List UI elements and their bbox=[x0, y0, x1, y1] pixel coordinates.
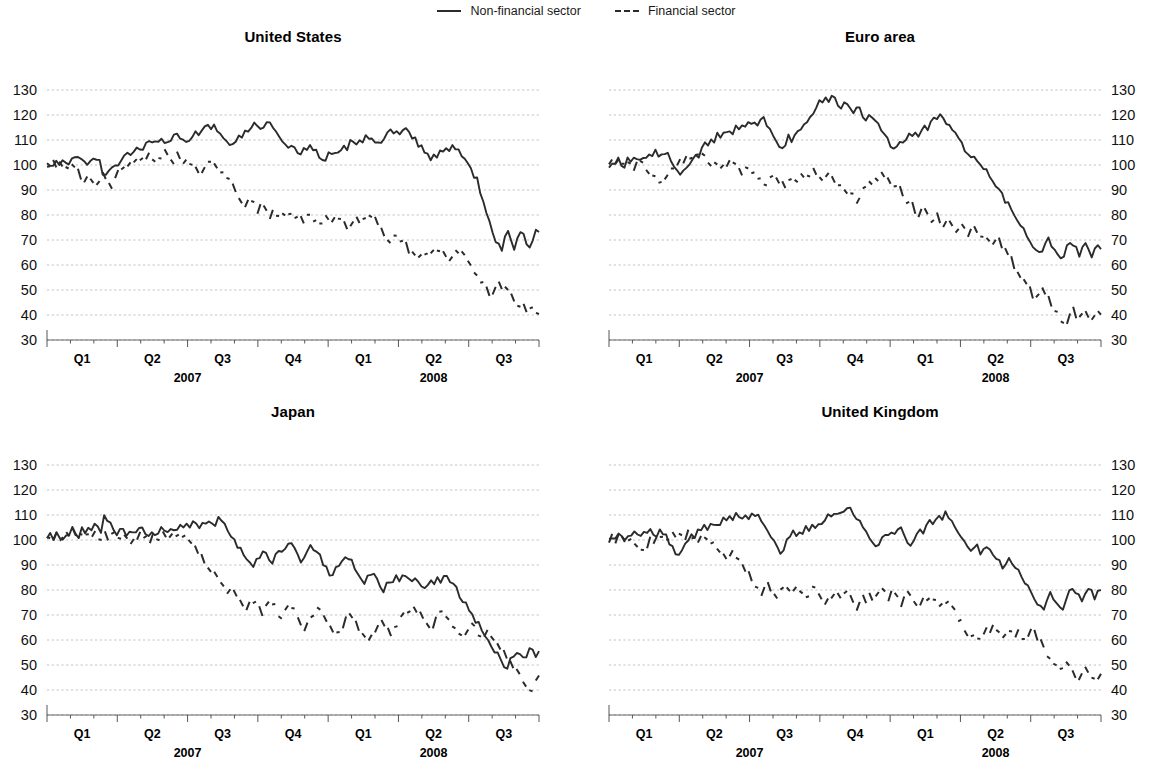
x-axis-quarter-label: Q1 bbox=[624, 352, 664, 366]
chart-panel-top-right: Euro area13012011010090807060504030Q1Q2Q… bbox=[587, 28, 1173, 390]
panel-title: United Kingdom bbox=[587, 403, 1173, 420]
y-axis-tick-label: 30 bbox=[0, 333, 37, 348]
x-axis-quarter-label: Q1 bbox=[905, 727, 945, 741]
x-axis-quarter-label: Q4 bbox=[835, 727, 875, 741]
y-axis-tick-label: 60 bbox=[1111, 258, 1161, 273]
y-axis-tick-label: 90 bbox=[0, 183, 37, 198]
y-axis-tick-label: 90 bbox=[1111, 183, 1161, 198]
x-axis-quarter-label: Q4 bbox=[835, 352, 875, 366]
y-axis-tick-label: 80 bbox=[0, 208, 37, 223]
y-axis-tick-label: 130 bbox=[1111, 458, 1161, 473]
x-axis-quarter-label: Q3 bbox=[765, 352, 805, 366]
y-axis-tick-label: 40 bbox=[0, 683, 37, 698]
plot-area bbox=[47, 465, 545, 731]
x-axis-year-label: 2008 bbox=[404, 371, 464, 385]
x-axis-quarter-label: Q3 bbox=[203, 727, 243, 741]
legend-swatch-dashed-line-icon bbox=[615, 10, 639, 12]
x-axis-quarter-label: Q1 bbox=[62, 352, 102, 366]
y-axis-tick-label: 40 bbox=[1111, 683, 1161, 698]
legend-label-financial: Financial sector bbox=[648, 4, 736, 18]
legend-swatch-solid-line-icon bbox=[437, 10, 461, 12]
x-axis-quarter-label: Q2 bbox=[694, 727, 734, 741]
legend-label-non-financial: Non-financial sector bbox=[470, 4, 580, 18]
x-axis-year-label: 2008 bbox=[404, 746, 464, 760]
x-axis-quarter-label: Q2 bbox=[976, 727, 1016, 741]
y-axis-tick-label: 120 bbox=[1111, 108, 1161, 123]
chart-panel-top-left: United States13012011010090807060504030Q… bbox=[0, 28, 586, 390]
x-axis-quarter-label: Q3 bbox=[765, 727, 805, 741]
chart-panel-bottom-left: Japan13012011010090807060504030Q1Q2Q3Q4Q… bbox=[0, 403, 586, 765]
series-line-non-financial bbox=[47, 122, 539, 250]
y-axis-tick-label: 80 bbox=[1111, 208, 1161, 223]
x-axis-year-label: 2007 bbox=[720, 746, 780, 760]
x-axis-quarter-label: Q1 bbox=[905, 352, 945, 366]
y-axis-tick-label: 50 bbox=[1111, 283, 1161, 298]
y-axis-tick-label: 90 bbox=[0, 558, 37, 573]
x-axis-year-label: 2007 bbox=[158, 371, 218, 385]
y-axis-tick-label: 50 bbox=[0, 283, 37, 298]
y-axis-tick-label: 110 bbox=[0, 508, 37, 523]
series-line-financial bbox=[47, 529, 539, 692]
x-axis-quarter-label: Q4 bbox=[273, 352, 313, 366]
y-axis-tick-label: 130 bbox=[0, 458, 37, 473]
y-axis-tick-label: 70 bbox=[1111, 233, 1161, 248]
y-axis-tick-label: 120 bbox=[1111, 483, 1161, 498]
x-axis-quarter-label: Q1 bbox=[62, 727, 102, 741]
y-axis-tick-label: 70 bbox=[0, 608, 37, 623]
y-axis-tick-label: 30 bbox=[1111, 333, 1161, 348]
x-axis-quarter-label: Q3 bbox=[1046, 352, 1086, 366]
y-axis-tick-label: 80 bbox=[0, 583, 37, 598]
chart-legend: Non-financial sector Financial sector bbox=[0, 4, 1173, 18]
plot-area bbox=[609, 90, 1107, 356]
series-line-non-financial bbox=[609, 96, 1101, 259]
y-axis-tick-label: 50 bbox=[0, 658, 37, 673]
y-axis-tick-label: 60 bbox=[0, 258, 37, 273]
x-axis-year-label: 2007 bbox=[720, 371, 780, 385]
y-axis-tick-label: 40 bbox=[0, 308, 37, 323]
y-axis-tick-label: 130 bbox=[0, 83, 37, 98]
x-axis-quarter-label: Q1 bbox=[343, 727, 383, 741]
y-axis-tick-label: 130 bbox=[1111, 83, 1161, 98]
chart-panel-bottom-right: United Kingdom13012011010090807060504030… bbox=[587, 403, 1173, 765]
x-axis-quarter-label: Q1 bbox=[624, 727, 664, 741]
x-axis-quarter-label: Q3 bbox=[484, 352, 524, 366]
x-axis-quarter-label: Q4 bbox=[273, 727, 313, 741]
y-axis-tick-label: 110 bbox=[1111, 508, 1161, 523]
x-axis-quarter-label: Q2 bbox=[976, 352, 1016, 366]
y-axis-tick-label: 70 bbox=[1111, 608, 1161, 623]
y-axis-tick-label: 100 bbox=[0, 158, 37, 173]
x-axis-quarter-label: Q1 bbox=[343, 352, 383, 366]
y-axis-tick-label: 40 bbox=[1111, 308, 1161, 323]
x-axis-quarter-label: Q3 bbox=[1046, 727, 1086, 741]
y-axis-tick-label: 30 bbox=[0, 708, 37, 723]
panel-title: United States bbox=[0, 28, 586, 45]
x-axis-quarter-label: Q2 bbox=[132, 352, 172, 366]
series-line-non-financial bbox=[609, 508, 1101, 610]
x-axis-quarter-label: Q2 bbox=[132, 727, 172, 741]
y-axis-tick-label: 80 bbox=[1111, 583, 1161, 598]
y-axis-tick-label: 70 bbox=[0, 233, 37, 248]
panel-title: Euro area bbox=[587, 28, 1173, 45]
legend-item-financial: Financial sector bbox=[615, 4, 736, 18]
x-axis-quarter-label: Q3 bbox=[203, 352, 243, 366]
y-axis-tick-label: 60 bbox=[1111, 633, 1161, 648]
y-axis-tick-label: 30 bbox=[1111, 708, 1161, 723]
y-axis-tick-label: 60 bbox=[0, 633, 37, 648]
y-axis-tick-label: 110 bbox=[1111, 133, 1161, 148]
plot-area bbox=[609, 465, 1107, 731]
x-axis-year-label: 2008 bbox=[966, 746, 1026, 760]
series-line-financial bbox=[47, 149, 539, 314]
panel-title: Japan bbox=[0, 403, 586, 420]
series-line-financial bbox=[609, 530, 1101, 680]
x-axis-quarter-label: Q2 bbox=[414, 727, 454, 741]
y-axis-tick-label: 100 bbox=[1111, 158, 1161, 173]
y-axis-tick-label: 100 bbox=[1111, 533, 1161, 548]
x-axis-quarter-label: Q2 bbox=[694, 352, 734, 366]
y-axis-tick-label: 110 bbox=[0, 133, 37, 148]
y-axis-tick-label: 120 bbox=[0, 483, 37, 498]
y-axis-tick-label: 90 bbox=[1111, 558, 1161, 573]
x-axis-quarter-label: Q3 bbox=[484, 727, 524, 741]
legend-item-non-financial: Non-financial sector bbox=[437, 4, 580, 18]
y-axis-tick-label: 120 bbox=[0, 108, 37, 123]
x-axis-year-label: 2008 bbox=[966, 371, 1026, 385]
